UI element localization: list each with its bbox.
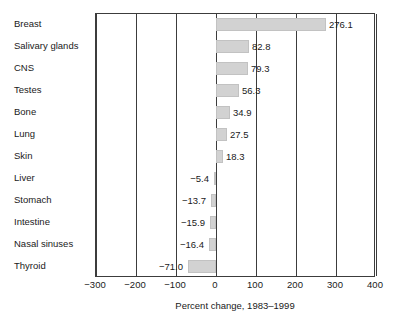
x-tick-label: 100 (247, 278, 263, 292)
category-label: Thyroid (0, 255, 83, 277)
bar[interactable] (216, 150, 223, 163)
bar-value-label: −5.4 (190, 171, 212, 186)
bar-row: 79.3 (96, 58, 374, 80)
bar[interactable] (211, 194, 216, 207)
bar-row: 56.3 (96, 80, 374, 102)
bar[interactable] (216, 128, 227, 141)
x-axis-title: Percent change, 1983–1999 (95, 300, 375, 311)
x-tick-label: 300 (327, 278, 343, 292)
bar-row: −16.4 (96, 234, 374, 256)
bar-row: −15.9 (96, 212, 374, 234)
bar-value-label: 27.5 (227, 127, 249, 142)
bar[interactable] (216, 84, 239, 97)
category-label: Lung (0, 123, 83, 145)
bar-row: −13.7 (96, 190, 374, 212)
bar[interactable] (214, 172, 216, 185)
category-label: Stomach (0, 189, 83, 211)
bar-row: 34.9 (96, 102, 374, 124)
bar-chart-figure: BreastSalivary glandsCNSTestesBoneLungSk… (0, 0, 397, 330)
bar-row: −71.0 (96, 256, 374, 278)
bar[interactable] (216, 62, 248, 75)
bar-row: 27.5 (96, 124, 374, 146)
bar-row: 276.1 (96, 14, 374, 36)
bar-value-label: −15.9 (181, 215, 208, 230)
bar-value-label: 18.3 (223, 149, 245, 164)
x-tick-label: 0 (212, 278, 217, 292)
category-label: Skin (0, 145, 83, 167)
x-tick-label: −300 (84, 278, 105, 292)
gridline (376, 14, 377, 276)
x-tick-label: −100 (164, 278, 185, 292)
plot-area: 276.182.879.356.334.927.518.3−5.4−13.7−1… (95, 13, 375, 277)
bar-row: −5.4 (96, 168, 374, 190)
category-label: Testes (0, 79, 83, 101)
bar-value-label: 276.1 (326, 17, 353, 32)
bar[interactable] (216, 18, 326, 31)
bar-value-label: 56.3 (239, 83, 261, 98)
bar[interactable] (210, 216, 216, 229)
category-label: Nasal sinuses (0, 233, 83, 255)
bar-value-label: 82.8 (249, 39, 271, 54)
category-label: Salivary glands (0, 35, 83, 57)
bar[interactable] (216, 40, 249, 53)
category-label: Bone (0, 101, 83, 123)
bar[interactable] (209, 238, 216, 251)
category-axis: BreastSalivary glandsCNSTestesBoneLungSk… (0, 13, 90, 277)
bar[interactable] (188, 260, 216, 273)
bar-value-label: −13.7 (182, 193, 209, 208)
category-label: Breast (0, 13, 83, 35)
bar-row: 18.3 (96, 146, 374, 168)
x-tick-label: 400 (367, 278, 383, 292)
x-tick-label: −200 (124, 278, 145, 292)
bar-value-label: 34.9 (230, 105, 252, 120)
bar-row: 82.8 (96, 36, 374, 58)
bar-value-label: −16.4 (180, 237, 207, 252)
category-label: Intestine (0, 211, 83, 233)
bar[interactable] (216, 106, 230, 119)
bar-value-label: −71.0 (159, 259, 186, 274)
x-axis-tick-labels: −300−200−1000100200300400 (95, 278, 375, 294)
bar-value-label: 79.3 (248, 61, 270, 76)
category-label: CNS (0, 57, 83, 79)
category-label: Liver (0, 167, 83, 189)
x-tick-label: 200 (287, 278, 303, 292)
